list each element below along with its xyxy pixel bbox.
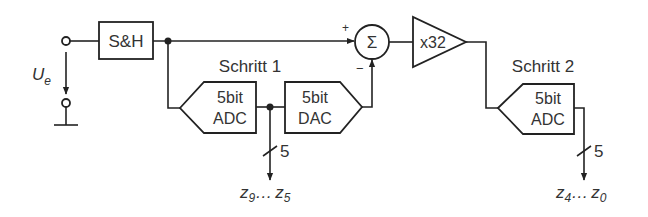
input-terminal-bottom (62, 99, 70, 107)
svg-text:ADC: ADC (213, 110, 247, 127)
adc1-block: 5bit ADC (180, 82, 256, 133)
wire-amp-adc2 (466, 42, 498, 108)
svg-text:x32: x32 (420, 34, 446, 51)
bus-width-2: 5 (594, 142, 603, 161)
output-label-2: z4…z0 (555, 183, 607, 205)
amplifier-x32: x32 (413, 17, 466, 67)
step2-label: Schritt 2 (512, 57, 574, 76)
sample-hold-block: S&H (99, 22, 153, 59)
output-label-1: z9…z5 (239, 183, 291, 205)
svg-text:ADC: ADC (531, 111, 565, 128)
output-bus-2 (574, 108, 584, 180)
svg-text:Σ: Σ (367, 33, 378, 52)
svg-text:5bit: 5bit (535, 90, 561, 107)
wire-to-adc1 (168, 41, 180, 108)
minus-sign: − (356, 61, 364, 76)
svg-text:DAC: DAC (298, 110, 332, 127)
input-voltage-label: Ue (32, 65, 51, 88)
summing-junction: Σ (355, 25, 389, 59)
bus-width-1: 5 (280, 142, 289, 161)
plus-sign: + (342, 21, 349, 35)
svg-text:5bit: 5bit (302, 89, 328, 106)
input-terminal-top (62, 37, 70, 45)
step1-label: Schritt 1 (219, 57, 281, 76)
dac-block: 5bit DAC (285, 82, 362, 133)
adc2-block: 5bit ADC (498, 84, 574, 134)
svg-text:S&H: S&H (109, 32, 144, 51)
svg-text:5bit: 5bit (217, 89, 243, 106)
adc-diagram: Ue S&H Schritt 1 5bit ADC 5 z9…z5 5bit D… (0, 0, 648, 217)
